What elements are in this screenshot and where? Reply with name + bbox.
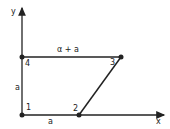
point-2 [77, 113, 82, 118]
point-1-label: 1 [26, 104, 31, 112]
point-4-label: 4 [25, 60, 30, 68]
y-axis-label: y [11, 8, 16, 16]
point-1 [20, 113, 25, 118]
edge-bottom-label: a [48, 118, 53, 126]
point-4 [20, 55, 25, 60]
point-2-label: 2 [73, 105, 78, 113]
edge-top-label: α + a [57, 46, 79, 54]
point-3-label: 3 [110, 59, 115, 67]
point-3 [119, 55, 124, 60]
edge-left-label: a [15, 84, 20, 92]
x-axis-label: x [156, 118, 161, 126]
